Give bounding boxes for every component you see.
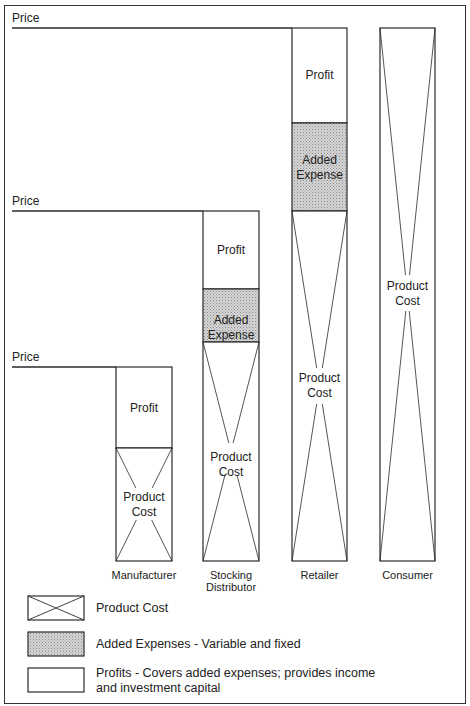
added-expense-label-line2: Expense (208, 328, 255, 342)
profit-label: Profit (305, 68, 334, 82)
stage-label: Distributor (206, 581, 256, 593)
legend (28, 596, 84, 692)
product-cost-label-line1: Product (123, 490, 165, 504)
product-cost-label-line2: Cost (307, 386, 332, 400)
product-cost-label-line1: Product (387, 279, 429, 293)
product-cost-label-line1: Product (210, 450, 252, 464)
added-expenses-swatch (28, 632, 84, 656)
price-level-retailer: Price (12, 11, 292, 28)
stage-label: Consumer (382, 569, 433, 581)
column-stocking-distributor: Profit Added Expense Product Cost Stocki… (203, 211, 259, 593)
legend-swatch-product-cost (28, 596, 84, 620)
price-label: Price (12, 194, 40, 208)
column-retailer: Profit Added Expense Product Cost Retail… (292, 28, 347, 581)
stage-label: Retailer (301, 569, 339, 581)
product-cost-label-line2: Cost (395, 294, 420, 308)
added-expense-label-line2: Expense (296, 168, 343, 182)
added-expense-label-line1: Added (214, 313, 249, 327)
profit-label: Profit (217, 243, 246, 257)
column-consumer: Product Cost Consumer (380, 28, 435, 581)
stage-label: Stocking (210, 569, 252, 581)
column-manufacturer: Profit Product Cost Manufacturer (112, 367, 177, 581)
price-label: Price (12, 350, 40, 364)
profit-label: Profit (130, 401, 159, 415)
profits-swatch (28, 668, 84, 692)
price-label: Price (12, 11, 40, 25)
legend-label-product-cost: Product Cost (96, 601, 168, 616)
added-expense-label-line1: Added (302, 153, 337, 167)
product-cost-label-line2: Cost (132, 505, 157, 519)
legend-label-added-expenses: Added Expenses - Variable and fixed (96, 637, 301, 652)
added-expense-segment (292, 123, 347, 211)
legend-label-profits: Profits - Covers added expenses; provide… (96, 666, 396, 696)
stage-label: Manufacturer (112, 569, 177, 581)
product-cost-label-line1: Product (299, 371, 341, 385)
price-level-manufacturer: Price (12, 350, 116, 367)
product-cost-label-line2: Cost (219, 465, 244, 479)
price-buildup-diagram: Price Price Price Profit Product Cost Ma… (0, 0, 470, 706)
price-level-distributor: Price (12, 194, 203, 211)
